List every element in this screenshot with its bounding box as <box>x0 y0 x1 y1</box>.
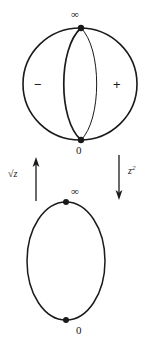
square-exponent: 2 <box>132 164 136 172</box>
bottom-infinity-point <box>63 199 69 205</box>
bottom-zero-label: 0 <box>76 325 82 336</box>
left-meridian-arc <box>64 28 81 140</box>
top-infinity-label: ∞ <box>71 9 79 20</box>
right-meridian-arc <box>81 28 97 140</box>
negative-sheet-label: − <box>34 78 42 91</box>
bottom-diagram-group <box>27 199 105 323</box>
sqrt-variable: z <box>14 168 18 179</box>
square-map-label: z2 <box>128 166 135 176</box>
top-zero-point <box>78 137 84 143</box>
bottom-infinity-label: ∞ <box>71 186 79 197</box>
sqrt-map-label: √z <box>8 169 17 179</box>
math-figure: ∞ 0 − + ∞ 0 √z z2 <box>0 0 158 348</box>
top-zero-label: 0 <box>76 145 82 156</box>
positive-sheet-label: + <box>113 78 121 91</box>
bottom-outer-circle <box>27 202 105 320</box>
top-infinity-point <box>78 25 84 31</box>
bottom-zero-point <box>63 317 69 323</box>
